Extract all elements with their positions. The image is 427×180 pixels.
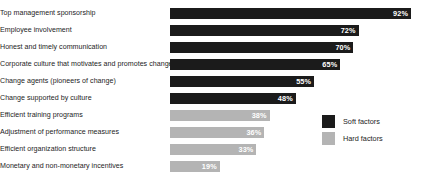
bar-soft: 70% — [170, 42, 353, 53]
category-label: Corporate culture that motivates and pro… — [0, 60, 170, 69]
horizontal-bar-chart: Top management sponsorship92%Employee in… — [0, 0, 427, 180]
category-label: Adjustment of performance measures — [0, 128, 170, 137]
bar-soft: 48% — [170, 93, 296, 104]
chart-legend: Soft factors Hard factors — [322, 113, 422, 147]
bar-value-label: 70% — [335, 43, 350, 52]
chart-row: Employee involvement72% — [0, 22, 427, 39]
category-label: Efficient training programs — [0, 111, 170, 120]
bar-soft: 72% — [170, 25, 359, 36]
legend-swatch-soft-icon — [322, 115, 335, 128]
chart-row: Change agents (pioneers of change)55% — [0, 73, 427, 90]
bar-hard: 38% — [170, 110, 270, 121]
bar-soft: 55% — [170, 76, 314, 87]
bar-value-label: 36% — [246, 128, 261, 137]
chart-row: Corporate culture that motivates and pro… — [0, 56, 427, 73]
bar-soft: 92% — [170, 8, 411, 19]
bar-value-label: 48% — [278, 94, 293, 103]
bar-value-label: 65% — [322, 60, 337, 69]
bar-track: 92% — [170, 5, 427, 22]
bar-track: 19% — [170, 158, 427, 175]
chart-rows: Top management sponsorship92%Employee in… — [0, 5, 427, 175]
bar-track: 48% — [170, 90, 427, 107]
bar-soft: 65% — [170, 59, 340, 70]
bar-track: 70% — [170, 39, 427, 56]
category-label: Change agents (pioneers of change) — [0, 77, 170, 86]
legend-swatch-hard-icon — [322, 132, 335, 145]
bar-hard: 33% — [170, 144, 256, 155]
bar-track: 65% — [170, 56, 427, 73]
category-label: Top management sponsorship — [0, 9, 170, 18]
chart-row: Change supported by culture48% — [0, 90, 427, 107]
category-label: Efficient organization structure — [0, 145, 170, 154]
bar-value-label: 92% — [393, 9, 408, 18]
category-label: Employee involvement — [0, 26, 170, 35]
category-label: Honest and timely communication — [0, 43, 170, 52]
chart-row: Monetary and non-monetary incentives19% — [0, 158, 427, 175]
bar-track: 55% — [170, 73, 427, 90]
legend-item-hard-factors: Hard factors — [322, 130, 422, 147]
category-label: Change supported by culture — [0, 94, 170, 103]
bar-value-label: 55% — [296, 77, 311, 86]
bar-value-label: 33% — [239, 145, 254, 154]
bar-hard: 19% — [170, 161, 220, 172]
bar-value-label: 38% — [252, 111, 267, 120]
bar-track: 72% — [170, 22, 427, 39]
bar-value-label: 72% — [341, 26, 356, 35]
bar-value-label: 19% — [202, 162, 217, 171]
legend-label-hard: Hard factors — [343, 134, 383, 143]
legend-label-soft: Soft factors — [343, 117, 380, 126]
chart-row: Honest and timely communication70% — [0, 39, 427, 56]
chart-row: Top management sponsorship92% — [0, 5, 427, 22]
category-label: Monetary and non-monetary incentives — [0, 162, 170, 171]
legend-item-soft-factors: Soft factors — [322, 113, 422, 130]
bar-hard: 36% — [170, 127, 264, 138]
